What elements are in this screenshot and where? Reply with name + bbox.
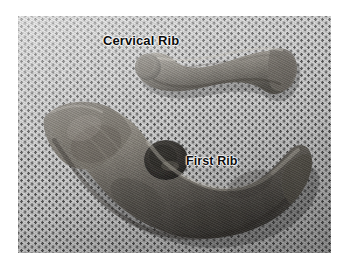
cervical-rib-specimen	[135, 48, 301, 101]
label-cervical-rib: Cervical Rib	[103, 33, 179, 48]
first-rib-specimen	[44, 102, 320, 248]
label-first-rib: First Rib	[186, 154, 238, 168]
figure-root: Cervical Rib First Rib	[0, 0, 348, 267]
specimen-photograph: Cervical Rib First Rib	[18, 16, 331, 253]
bone-specimens-layer	[18, 16, 331, 253]
cervical-rib-head-facet	[138, 57, 154, 74]
